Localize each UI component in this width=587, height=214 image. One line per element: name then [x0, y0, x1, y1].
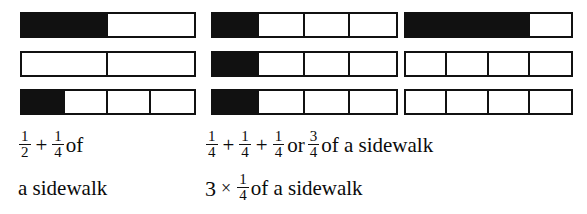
bar-cell-empty [65, 91, 108, 113]
bar-cell-empty [305, 14, 351, 36]
caption-middle: 1 4 + 1 4 + 1 4 or 3 4 of a sidewalk 3 × [205, 124, 435, 210]
bar-cell-empty [406, 91, 447, 113]
fraction-one-quarter: 1 4 [52, 129, 64, 161]
bar-cell-filled [22, 91, 65, 113]
bar-cell-empty [447, 53, 488, 75]
caption-middle-line-1: 1 4 + 1 4 + 1 4 or 3 4 of a sidewalk [205, 124, 435, 167]
fraction-one-quarter: 1 4 [237, 172, 249, 204]
bar-cell-empty [530, 91, 571, 113]
bar-cell-filled [489, 14, 530, 36]
bar-row [20, 89, 196, 115]
bar-cell-filled [213, 91, 259, 113]
bar-cell-empty [350, 53, 396, 75]
bar-cell-filled [22, 14, 108, 36]
bar-cell-empty [406, 53, 447, 75]
bar-cell-empty [108, 53, 194, 75]
fraction-denominator: 4 [237, 188, 249, 203]
bar-cell-filled [447, 14, 488, 36]
bar-row [211, 12, 398, 38]
fraction-three-quarters: 3 4 [308, 129, 320, 161]
bar-cell-empty [108, 91, 151, 113]
fraction-denominator: 4 [52, 145, 64, 160]
operator-plus: + [223, 124, 235, 167]
fraction-numerator: 1 [19, 129, 31, 145]
bar-cell-empty [259, 91, 305, 113]
bar-cell-empty [489, 91, 530, 113]
fraction-one-half: 1 2 [19, 129, 31, 161]
bar-cell-empty [447, 91, 488, 113]
caption-text-of-a-sidewalk: of a sidewalk [321, 124, 433, 167]
fraction-numerator: 1 [52, 129, 64, 145]
bar-cell-empty [22, 53, 108, 75]
bar-cell-empty [259, 14, 305, 36]
fraction-numerator: 1 [206, 129, 218, 145]
bar-row [404, 51, 573, 77]
bar-cell-empty [530, 14, 571, 36]
caption-left-line-1: 1 2 + 1 4 of [18, 124, 107, 167]
fraction-denominator: 4 [273, 145, 285, 160]
caption-text-a-sidewalk: a sidewalk [18, 167, 107, 210]
operator-plus: + [256, 124, 268, 167]
fraction-numerator: 1 [273, 129, 285, 145]
fraction-denominator: 4 [239, 145, 251, 160]
bar-cell-empty [305, 53, 351, 75]
bar-cell-empty [350, 91, 396, 113]
bar-row [20, 12, 196, 38]
fraction-bar-diagram-area [0, 0, 587, 124]
fraction-denominator: 2 [19, 145, 31, 160]
bar-row [211, 89, 398, 115]
bar-cell-empty [108, 14, 194, 36]
caption-left: 1 2 + 1 4 of a sidewalk [18, 124, 107, 210]
caption-area: 1 2 + 1 4 of a sidewalk 1 4 + 1 4 [0, 124, 587, 214]
fraction-numerator: 1 [237, 172, 249, 188]
bar-row [20, 51, 196, 77]
bar-cell-empty [305, 91, 351, 113]
caption-left-line-2: a sidewalk [18, 167, 107, 210]
caption-text-of-a-sidewalk: of a sidewalk [251, 167, 363, 210]
fraction-one-quarter: 1 4 [239, 129, 251, 161]
caption-word-or: or [287, 124, 305, 167]
operator-multiply: × [221, 167, 231, 210]
fraction-one-quarter: 1 4 [273, 129, 285, 161]
multiplier-value: 3 [205, 167, 216, 210]
fraction-numerator: 3 [308, 129, 320, 145]
bar-row [404, 89, 573, 115]
bar-row [211, 51, 398, 77]
bar-cell-empty [259, 53, 305, 75]
fraction-denominator: 4 [206, 145, 218, 160]
caption-middle-line-2: 3 × 1 4 of a sidewalk [205, 167, 435, 210]
bar-row [404, 12, 573, 38]
bar-cell-filled [213, 14, 259, 36]
bar-cell-empty [530, 53, 571, 75]
bar-cell-empty [350, 14, 396, 36]
bar-cell-empty [489, 53, 530, 75]
bar-cell-filled [213, 53, 259, 75]
operator-plus: + [36, 124, 48, 167]
bar-cell-filled [406, 14, 447, 36]
fraction-denominator: 4 [308, 145, 320, 160]
bar-cell-empty [151, 91, 194, 113]
caption-word-of: of [66, 124, 84, 167]
fraction-one-quarter: 1 4 [206, 129, 218, 161]
fraction-numerator: 1 [239, 129, 251, 145]
